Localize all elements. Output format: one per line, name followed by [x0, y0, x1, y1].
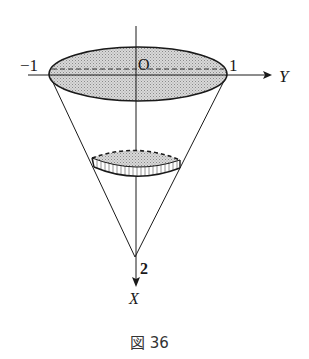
label-x-axis: X [128, 290, 140, 307]
label-x-tick: 2 [140, 260, 148, 277]
label-y-axis: Y [279, 67, 290, 86]
cone-diagram: −1 O 1 Y 2 X 図 36 [0, 0, 309, 359]
label-origin: O [138, 56, 150, 73]
cross-section-slice [92, 150, 180, 176]
figure-caption: 図 36 [130, 334, 169, 352]
label-y-pos: 1 [229, 56, 238, 75]
label-y-neg: −1 [20, 56, 38, 75]
